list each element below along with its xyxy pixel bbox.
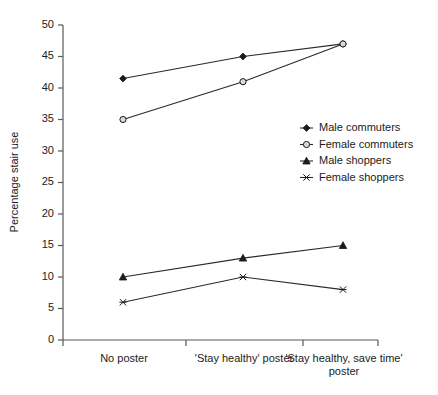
data-point-marker bbox=[240, 79, 246, 85]
y-axis-title: Percentage stair use bbox=[8, 132, 20, 233]
series-male-commuters bbox=[120, 41, 347, 82]
series-line bbox=[123, 44, 343, 79]
stair-use-line-chart: Percentage stair use 0510152025303540455… bbox=[0, 0, 438, 395]
y-tick-label: 30 bbox=[42, 144, 54, 156]
y-tick-label: 25 bbox=[42, 175, 54, 187]
series-line bbox=[123, 246, 343, 278]
data-point-marker bbox=[120, 75, 127, 82]
legend-label: Male shoppers bbox=[319, 154, 392, 166]
series-female-shoppers bbox=[119, 274, 346, 306]
legend-label: Female shoppers bbox=[319, 171, 404, 183]
y-tick-label: 10 bbox=[42, 270, 54, 282]
x-axis-ticks bbox=[63, 340, 378, 346]
chart-legend: Male commutersFemale commutersMale shopp… bbox=[300, 121, 414, 183]
x-axis-tick-labels: No poster'Stay healthy' poster'Stay heal… bbox=[100, 352, 402, 377]
data-point-marker bbox=[303, 174, 310, 180]
data-point-marker bbox=[339, 286, 346, 292]
data-point-marker bbox=[239, 274, 246, 280]
x-tick-label: poster bbox=[329, 365, 360, 377]
y-tick-label: 20 bbox=[42, 207, 54, 219]
x-tick-label: 'Stay healthy' poster bbox=[195, 352, 294, 364]
legend-item-female-commuters: Female commuters bbox=[300, 138, 414, 150]
data-point-marker bbox=[339, 242, 346, 249]
legend-label: Female commuters bbox=[319, 138, 414, 150]
x-tick-label: 'Stay healthy, save time' bbox=[285, 352, 402, 364]
y-tick-label: 35 bbox=[42, 112, 54, 124]
data-point-marker bbox=[303, 125, 310, 132]
legend-item-male-commuters: Male commuters bbox=[300, 121, 401, 133]
y-tick-label: 45 bbox=[42, 49, 54, 61]
chart-canvas: Percentage stair use 0510152025303540455… bbox=[0, 0, 438, 395]
y-tick-label: 5 bbox=[48, 301, 54, 313]
legend-label: Male commuters bbox=[319, 121, 401, 133]
y-tick-label: 50 bbox=[42, 18, 54, 30]
data-point-marker bbox=[120, 116, 126, 122]
series-line bbox=[123, 44, 343, 120]
data-point-marker bbox=[340, 41, 346, 47]
x-tick-label: No poster bbox=[100, 352, 148, 364]
y-tick-label: 0 bbox=[48, 333, 54, 345]
series-female-commuters bbox=[120, 41, 346, 123]
y-tick-label: 40 bbox=[42, 81, 54, 93]
y-axis-ticks: 05101520253035404550 bbox=[42, 18, 63, 345]
legend-item-female-shoppers: Female shoppers bbox=[300, 171, 404, 183]
data-point-marker bbox=[303, 141, 309, 147]
legend-item-male-shoppers: Male shoppers bbox=[300, 154, 392, 166]
data-point-marker bbox=[119, 299, 126, 305]
series-layer bbox=[119, 41, 346, 306]
series-male-shoppers bbox=[119, 242, 346, 280]
y-tick-label: 15 bbox=[42, 238, 54, 250]
data-point-marker bbox=[240, 53, 247, 60]
series-line bbox=[123, 277, 343, 302]
